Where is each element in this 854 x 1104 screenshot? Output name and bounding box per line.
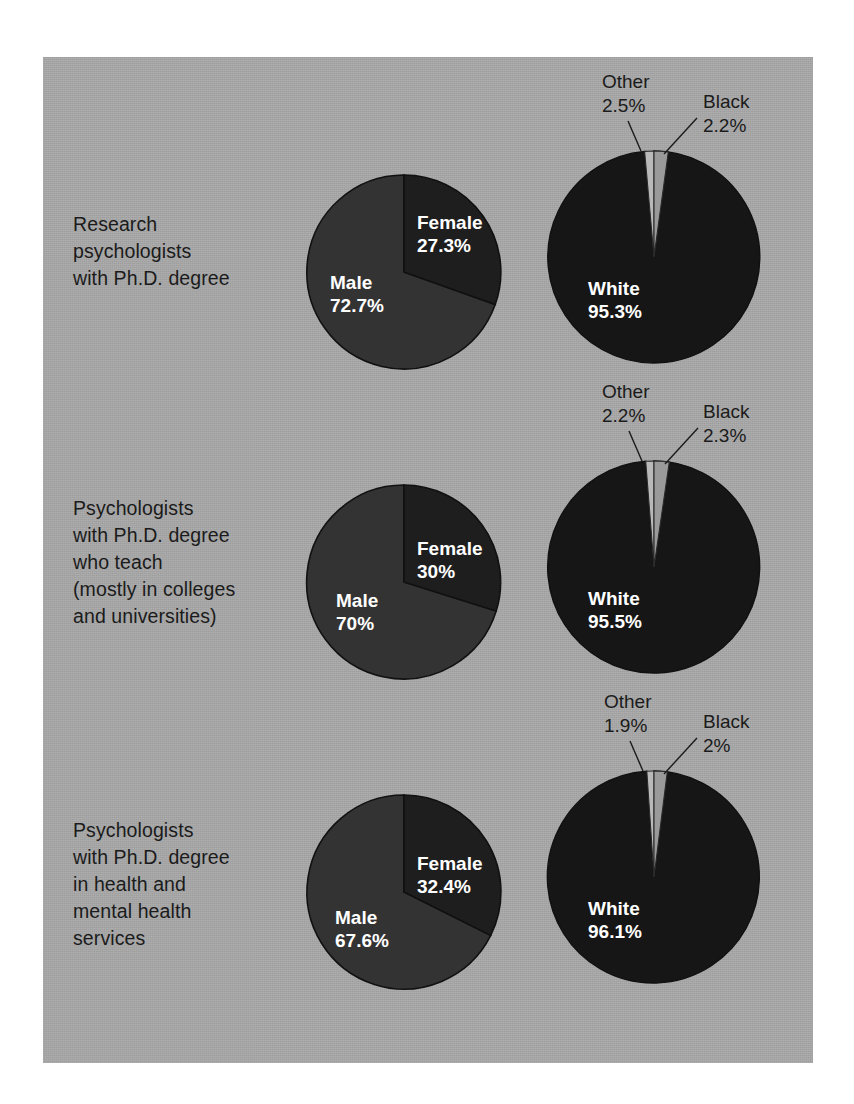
- pie-label-male-name: Male: [335, 907, 377, 928]
- callout-black-name: Black: [703, 711, 750, 732]
- callout-other-name: Other: [604, 691, 652, 712]
- leader-line-other: [630, 741, 643, 771]
- callout-other-value: 2.5%: [602, 95, 645, 116]
- pie-chart-research-gender: Female 27.3% Male 72.7%: [299, 167, 509, 377]
- pie-chart-teaching-race: Other 2.2% Black 2.3% White 95.5%: [540, 453, 770, 713]
- pie-label-male-name: Male: [336, 590, 378, 611]
- pie-chart-health-race: Other 1.9% Black 2% White 96.1%: [540, 763, 770, 1023]
- pie-race-svg: Other 2.2% Black 2.3% White 95.5%: [540, 453, 770, 713]
- leader-line-other: [629, 431, 642, 461]
- pie-label-white-name: White: [588, 588, 640, 609]
- callout-other-name: Other: [602, 381, 650, 402]
- callout-black-value: 2.2%: [703, 115, 746, 136]
- pie-gender-svg: Female 27.3% Male 72.7%: [299, 167, 509, 377]
- chart-row-research: Research psychologists with Ph.D. degree…: [43, 105, 813, 425]
- callout-black-name: Black: [703, 91, 750, 112]
- pie-chart-teaching-gender: Female 30% Male 70%: [299, 477, 509, 687]
- leader-line-black: [664, 738, 697, 774]
- pie-label-male-value: 70%: [336, 613, 374, 634]
- pie-chart-research-race: Other 2.5% Black 2.2% White 95.3%: [540, 143, 770, 403]
- leader-line-other: [628, 121, 641, 151]
- pie-label-male-value: 72.7%: [330, 295, 384, 316]
- row-label-health: Psychologists with Ph.D. degree in healt…: [73, 817, 323, 952]
- leader-line-black: [665, 428, 698, 464]
- pie-label-female-name: Female: [417, 853, 482, 874]
- pie-label-female-value: 32.4%: [417, 876, 471, 897]
- pie-label-male-value: 67.6%: [335, 930, 389, 951]
- row-label-teaching: Psychologists with Ph.D. degree who teac…: [73, 495, 323, 630]
- callout-black-value: 2%: [703, 735, 731, 756]
- pie-gender-svg: Female 32.4% Male 67.6%: [299, 787, 509, 997]
- callout-black-value: 2.3%: [703, 425, 746, 446]
- pie-label-white-name: White: [588, 898, 640, 919]
- pie-gender-svg: Female 30% Male 70%: [299, 477, 509, 687]
- pie-label-female-name: Female: [417, 212, 482, 233]
- pie-label-female-value: 27.3%: [417, 235, 471, 256]
- callout-black-name: Black: [703, 401, 750, 422]
- pie-label-white-value: 96.1%: [588, 921, 642, 942]
- chart-row-teaching: Psychologists with Ph.D. degree who teac…: [43, 415, 813, 735]
- chart-row-health: Psychologists with Ph.D. degree in healt…: [43, 725, 813, 1045]
- callout-other-value: 1.9%: [604, 715, 647, 736]
- pie-label-male-name: Male: [330, 272, 372, 293]
- figure-panel: Research psychologists with Ph.D. degree…: [43, 57, 813, 1063]
- pie-chart-health-gender: Female 32.4% Male 67.6%: [299, 787, 509, 997]
- pie-label-white-name: White: [588, 278, 640, 299]
- callout-other-name: Other: [602, 71, 650, 92]
- leader-line-black: [664, 118, 697, 154]
- callout-other-value: 2.2%: [602, 405, 645, 426]
- pie-label-white-value: 95.3%: [588, 301, 642, 322]
- pie-race-svg: Other 2.5% Black 2.2% White 95.3%: [540, 143, 770, 403]
- row-label-research: Research psychologists with Ph.D. degree: [73, 211, 323, 292]
- pie-label-white-value: 95.5%: [588, 611, 642, 632]
- pie-race-svg: Other 1.9% Black 2% White 96.1%: [540, 763, 770, 1023]
- pie-label-female-value: 30%: [417, 561, 455, 582]
- pie-label-female-name: Female: [417, 538, 482, 559]
